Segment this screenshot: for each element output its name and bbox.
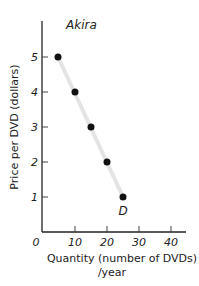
- x-axis-label-unit: /year: [98, 266, 127, 279]
- x-axis-label: Quantity (number of DVDs): [47, 252, 197, 265]
- data-point: [72, 89, 79, 96]
- y-tick-3: 3: [31, 121, 38, 134]
- y-tick-2: 2: [31, 156, 38, 169]
- y-tick-5: 5: [31, 51, 38, 64]
- x-tick-40: 40: [164, 236, 178, 249]
- data-point: [104, 159, 111, 166]
- chart-title: Akira: [65, 18, 97, 32]
- y-tick-4: 4: [31, 86, 38, 99]
- data-point: [55, 54, 62, 61]
- x-tick-30: 30: [132, 236, 146, 249]
- curve-label: D: [118, 204, 127, 218]
- demand-chart: 5 4 3 2 1 0 10 20 30 40 D Akira Price pe…: [0, 0, 199, 286]
- data-point: [120, 194, 127, 201]
- y-tick-1: 1: [31, 191, 38, 204]
- x-tick-20: 20: [100, 236, 114, 249]
- x-tick-10: 10: [68, 236, 82, 249]
- x-tick-0: 0: [33, 236, 40, 249]
- data-point: [88, 124, 95, 131]
- y-axis-label: Price per DVD (dollars): [8, 64, 21, 189]
